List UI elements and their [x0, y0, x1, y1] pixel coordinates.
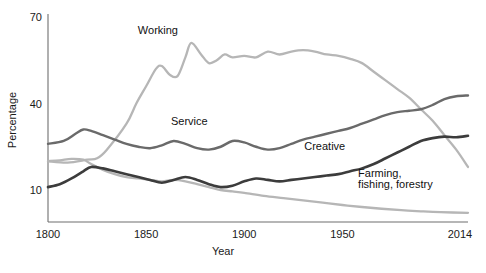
- series-label-farming-line2: fishing, forestry: [358, 178, 433, 190]
- y-axis-title: Percentage: [6, 92, 18, 148]
- y-tick-label-10: 10: [30, 184, 42, 196]
- x-tick-label-1900: 1900: [232, 228, 256, 240]
- series-label-working: Working: [138, 24, 178, 36]
- chart-container: 10 40 70 1800 1850 1900 1950 2014 Percen…: [0, 0, 486, 273]
- x-axis-title: Year: [212, 245, 235, 257]
- y-tick-label-70: 70: [30, 11, 42, 23]
- series-label-service: Service: [171, 115, 208, 127]
- y-tick-label-40: 40: [30, 98, 42, 110]
- x-tick-label-1800: 1800: [36, 228, 60, 240]
- series-line-service: [48, 95, 468, 149]
- x-tick-label-1950: 1950: [330, 228, 354, 240]
- line-chart-svg: 10 40 70 1800 1850 1900 1950 2014 Percen…: [0, 0, 486, 273]
- x-tick-label-1850: 1850: [134, 228, 158, 240]
- x-tick-label-2014: 2014: [448, 228, 472, 240]
- series-label-creative: Creative: [304, 140, 345, 152]
